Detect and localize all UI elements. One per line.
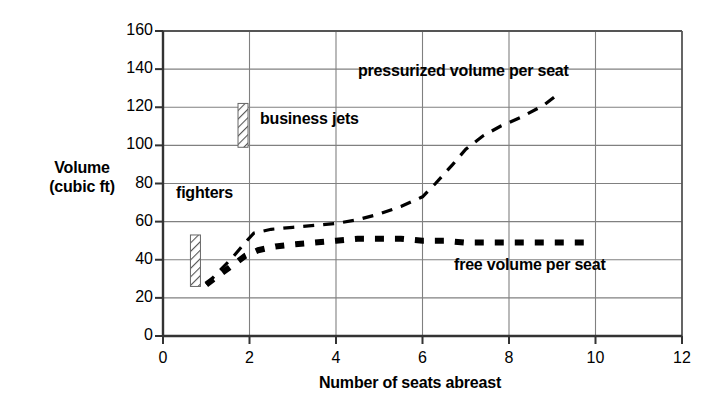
y-tick-label: 120: [111, 97, 153, 115]
y-tick-label: 60: [111, 212, 153, 230]
annotation-pressurized-volume: pressurized volume per seat: [358, 62, 569, 80]
y-tick-label: 20: [111, 288, 153, 306]
x-tick-label: 4: [316, 349, 356, 367]
x-tick-label: 0: [143, 349, 183, 367]
annotation-free-volume: free volume per seat: [454, 256, 606, 274]
annotation-business-jets: business jets: [260, 110, 359, 128]
x-tick-label: 2: [230, 349, 270, 367]
y-tick-label: 100: [111, 135, 153, 153]
chart-figure: Volume (cubic ft) Number of seats abreas…: [0, 0, 712, 419]
annotation-fighters: fighters: [176, 184, 233, 202]
x-tick-label: 12: [662, 349, 702, 367]
y-tick-label: 40: [111, 250, 153, 268]
x-tick-label: 6: [403, 349, 443, 367]
y-tick-label: 80: [111, 174, 153, 192]
y-tick-label: 0: [111, 326, 153, 344]
x-tick-label: 8: [489, 349, 529, 367]
y-tick-label: 160: [111, 21, 153, 39]
y-tick-label: 140: [111, 59, 153, 77]
x-tick-label: 10: [576, 349, 616, 367]
